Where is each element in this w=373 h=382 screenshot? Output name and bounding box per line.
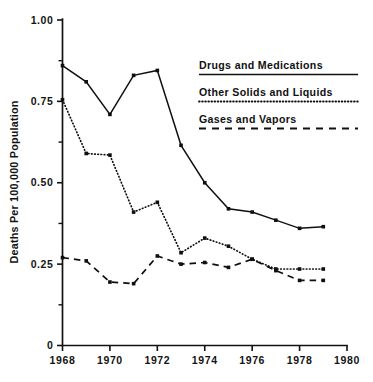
data-point-marker [108,280,112,284]
legend-entry-0: Drugs and Medications [199,59,358,75]
legend-label: Other Solids and Liquids [199,86,333,98]
data-point-marker [61,256,65,260]
y-axis-title-text: Deaths Per 100,000 Population [8,100,20,263]
data-point-marker [84,259,88,263]
chart-svg: 1.000.750.500.250 1968197019721974197619… [0,0,373,382]
x-tick-label: 1980 [334,354,360,366]
data-point-marker [321,267,325,271]
data-point-marker [61,98,65,102]
legend-entry-1: Other Solids and Liquids [199,86,358,102]
data-point-marker [203,261,207,265]
data-point-marker [156,200,160,204]
data-point-marker [156,69,160,73]
y-tick-label: 0 [47,339,53,351]
series-dashed [61,254,325,285]
data-point-marker [132,282,136,286]
y-tick-label: 0.50 [31,176,54,188]
x-tick-label: 1978 [287,354,313,366]
data-point-marker [274,218,278,222]
x-axis-tick-labels: 1968197019721974197619781980 [50,354,360,366]
data-point-marker [321,279,325,283]
legend-label: Drugs and Medications [199,59,323,71]
line-chart-figure: 1.000.750.500.250 1968197019721974197619… [0,0,373,382]
legend-entry-2: Gases and Vapors [199,113,358,129]
data-point-marker [298,267,302,271]
data-point-marker [227,244,231,248]
series-line [63,100,324,269]
x-tick-label: 1974 [192,354,218,366]
y-axis-title: Deaths Per 100,000 Population [8,100,20,263]
data-point-marker [250,257,254,261]
legend-label: Gases and Vapors [199,113,296,125]
data-point-marker [179,144,183,148]
data-point-marker [250,210,254,214]
chart-legend: Drugs and MedicationsOther Solids and Li… [199,59,358,129]
data-point-marker [84,152,88,156]
data-point-marker [156,254,160,258]
x-tick-label: 1970 [97,354,123,366]
data-point-marker [179,262,183,266]
data-point-marker [132,74,136,78]
y-tick-label: 0.75 [31,95,54,107]
data-point-marker [132,210,136,214]
y-tick-label: 1.00 [31,14,54,26]
data-point-marker [108,153,112,157]
x-tick-label: 1968 [50,354,76,366]
data-point-marker [61,64,65,68]
data-point-marker [298,227,302,231]
data-point-marker [227,266,231,270]
data-point-marker [227,207,231,211]
y-axis-tick-labels: 1.000.750.500.250 [31,14,54,352]
data-point-marker [203,236,207,240]
data-point-marker [84,80,88,84]
data-point-marker [108,113,112,117]
x-tick-label: 1976 [239,354,265,366]
data-point-marker [179,251,183,255]
data-point-marker [298,279,302,283]
data-point-marker [203,181,207,185]
x-tick-label: 1972 [144,354,170,366]
y-tick-label: 0.25 [31,258,54,270]
data-point-marker [274,269,278,273]
data-point-marker [321,225,325,229]
